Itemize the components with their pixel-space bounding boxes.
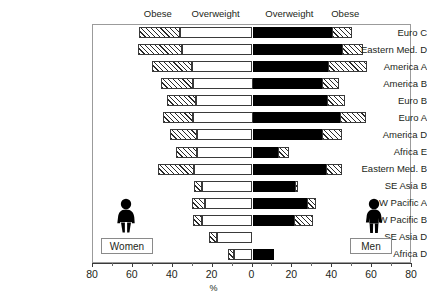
x-tick-label: 60 (117, 268, 147, 280)
segment-men-overweight (253, 78, 323, 89)
segment-men-overweight (253, 112, 341, 123)
female-figure-icon (113, 198, 139, 234)
segment-men-overweight (253, 198, 308, 209)
x-tick-label: 40 (157, 268, 187, 280)
segment-women-overweight (193, 112, 253, 123)
x-tick-major (371, 263, 372, 267)
category-label: America A (339, 62, 427, 72)
segment-men-overweight (253, 95, 328, 106)
men-legend-box: Men (350, 238, 392, 254)
x-tick-label: 40 (316, 268, 346, 280)
category-label: Euro A (339, 113, 427, 123)
segment-men-overweight (253, 61, 329, 72)
header-label-women-overweight: Overweight (176, 8, 256, 19)
x-tick-major (172, 263, 173, 267)
women-legend-label: Women (110, 241, 144, 252)
segment-women-obese (176, 147, 197, 158)
segment-men-obese (295, 181, 298, 192)
segment-women-obese (152, 61, 192, 72)
segment-women-overweight (193, 78, 253, 89)
male-figure-icon (362, 198, 386, 234)
segment-men-obese (278, 147, 289, 158)
category-label: Euro C (339, 28, 427, 38)
segment-women-overweight (234, 249, 253, 260)
x-tick-major (132, 263, 133, 267)
x-tick-label: 60 (356, 268, 386, 280)
x-tick-minor (391, 263, 392, 266)
category-label: Eastern Med. D (339, 45, 427, 55)
segment-women-obese (163, 112, 193, 123)
women-legend-box: Women (101, 238, 153, 254)
segment-women-overweight (180, 27, 253, 38)
x-tick-major (252, 263, 253, 267)
segment-women-overweight (192, 61, 253, 72)
x-tick-minor (271, 263, 272, 266)
segment-women-overweight (197, 147, 253, 158)
x-tick-major (411, 263, 412, 267)
segment-women-overweight (182, 44, 253, 55)
segment-women-obese (209, 232, 217, 243)
segment-men-obese (307, 198, 316, 209)
x-tick-minor (311, 263, 312, 266)
x-tick-minor (351, 263, 352, 266)
x-tick-minor (192, 263, 193, 266)
x-tick-label: 20 (197, 268, 227, 280)
segment-men-overweight (253, 27, 333, 38)
x-tick-minor (152, 263, 153, 266)
segment-women-overweight (205, 198, 253, 209)
segment-women-obese (167, 95, 196, 106)
category-label: America B (339, 79, 427, 89)
x-tick-minor (112, 263, 113, 266)
category-label: Eastern Med. B (339, 164, 427, 174)
x-axis-title: % (0, 283, 427, 293)
x-tick-label: 80 (396, 268, 426, 280)
x-tick-label: 20 (276, 268, 306, 280)
men-legend-label: Men (361, 241, 380, 252)
category-label: Africa E (339, 147, 427, 157)
segment-men-obese (294, 215, 313, 226)
category-label: America D (339, 130, 427, 140)
x-tick-major (291, 263, 292, 267)
x-tick-label: 0 (237, 268, 267, 280)
x-tick-major (212, 263, 213, 267)
segment-women-overweight (202, 181, 253, 192)
segment-men-overweight (253, 44, 343, 55)
segment-women-overweight (196, 95, 253, 106)
segment-women-obese (158, 164, 194, 175)
overweight-obesity-pyramid-chart: ObeseOverweightOverweightObese Euro CEas… (0, 0, 427, 301)
segment-men-overweight (253, 249, 275, 260)
x-tick-major (331, 263, 332, 267)
segment-women-overweight (217, 232, 253, 243)
x-tick-major (92, 263, 93, 267)
segment-men-overweight (253, 215, 295, 226)
segment-men-overweight (253, 147, 279, 158)
segment-women-obese (161, 78, 193, 89)
x-tick-label: 80 (77, 268, 107, 280)
segment-women-obese (192, 198, 205, 209)
segment-men-obese (322, 78, 339, 89)
category-label: SE Asia B (339, 181, 427, 191)
segment-women-obese (170, 129, 197, 140)
segment-women-obese (139, 27, 180, 38)
segment-women-overweight (194, 164, 253, 175)
segment-women-obese (193, 215, 202, 226)
segment-women-overweight (202, 215, 253, 226)
x-tick-minor (232, 263, 233, 266)
segment-men-overweight (253, 181, 296, 192)
segment-women-obese (138, 44, 182, 55)
segment-women-overweight (197, 129, 253, 140)
category-label: Euro B (339, 96, 427, 106)
segment-men-overweight (253, 164, 327, 175)
header-label-men-obese: Obese (305, 8, 385, 19)
segment-men-overweight (253, 129, 323, 140)
segment-women-obese (194, 181, 202, 192)
